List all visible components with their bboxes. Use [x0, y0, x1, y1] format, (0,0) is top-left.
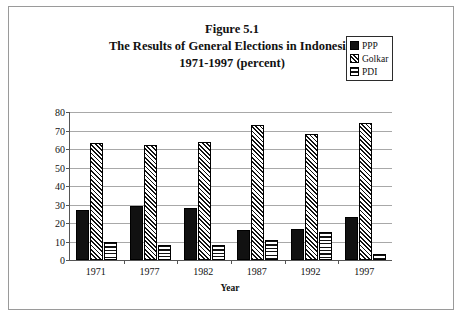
bar-pdi-1977: [158, 245, 171, 260]
bar-group-1971: [76, 112, 117, 260]
x-tick-label-1997: 1997: [341, 266, 387, 277]
legend-label-golkar: Golkar: [362, 54, 388, 64]
bar-pdi-1992: [319, 232, 332, 260]
y-tick-label: 80: [43, 107, 65, 118]
y-tick-label: 30: [43, 199, 65, 210]
y-tick-mark: [66, 260, 70, 261]
legend-swatch-golkar-icon: [350, 54, 359, 63]
legend-item-ppp: PPP: [350, 39, 388, 52]
bar-ppp-1992: [291, 229, 304, 260]
bar-golkar-1997: [359, 123, 372, 260]
bar-ppp-1977: [130, 206, 143, 260]
x-axis-tick-labels: 197119771982198719921997: [69, 266, 391, 280]
bar-ppp-1987: [237, 230, 250, 260]
x-tick-mark: [231, 260, 232, 264]
bar-group-1987: [237, 112, 278, 260]
legend-item-golkar: Golkar: [350, 52, 388, 65]
y-tick-label: 60: [43, 144, 65, 155]
bar-ppp-1982: [184, 208, 197, 260]
y-tick-label: 10: [43, 236, 65, 247]
y-tick-label: 0: [43, 255, 65, 266]
bar-pdi-1997: [373, 254, 386, 260]
x-tick-mark: [124, 260, 125, 264]
legend-label-ppp: PPP: [362, 41, 378, 51]
y-tick-label: 20: [43, 218, 65, 229]
bars-layer: [70, 112, 392, 260]
x-tick-mark: [338, 260, 339, 264]
bar-group-1977: [130, 112, 171, 260]
bar-group-1997: [345, 112, 386, 260]
figure-frame: Figure 5.1 The Results of General Electi…: [8, 6, 454, 310]
plot-area: [69, 112, 392, 261]
x-tick-label-1992: 1992: [288, 266, 334, 277]
x-tick-label-1977: 1977: [127, 266, 173, 277]
bar-group-1992: [291, 112, 332, 260]
bar-ppp-1997: [345, 217, 358, 260]
bar-golkar-1982: [198, 142, 211, 260]
bar-golkar-1992: [305, 134, 318, 260]
legend-swatch-pdi-icon: [350, 67, 359, 76]
y-tick-label: 70: [43, 125, 65, 136]
chart-legend: PPP Golkar PDI: [346, 36, 393, 81]
bar-golkar-1971: [90, 143, 103, 260]
x-tick-label-1987: 1987: [234, 266, 280, 277]
y-tick-label: 40: [43, 181, 65, 192]
y-axis-tick-labels: 01020304050607080: [41, 112, 65, 260]
y-tick-label: 50: [43, 162, 65, 173]
legend-label-pdi: PDI: [362, 67, 377, 77]
legend-item-pdi: PDI: [350, 65, 388, 78]
bar-pdi-1982: [212, 245, 225, 260]
legend-swatch-ppp-icon: [350, 41, 359, 50]
bar-ppp-1971: [76, 210, 89, 260]
bar-golkar-1987: [251, 125, 264, 260]
x-axis-title: Year: [69, 283, 391, 293]
x-tick-label-1982: 1982: [180, 266, 226, 277]
bar-pdi-1971: [104, 242, 117, 261]
bar-group-1982: [184, 112, 225, 260]
x-tick-mark: [285, 260, 286, 264]
bar-pdi-1987: [265, 240, 278, 260]
bar-golkar-1977: [144, 145, 157, 260]
x-tick-mark: [177, 260, 178, 264]
x-tick-label-1971: 1971: [73, 266, 119, 277]
